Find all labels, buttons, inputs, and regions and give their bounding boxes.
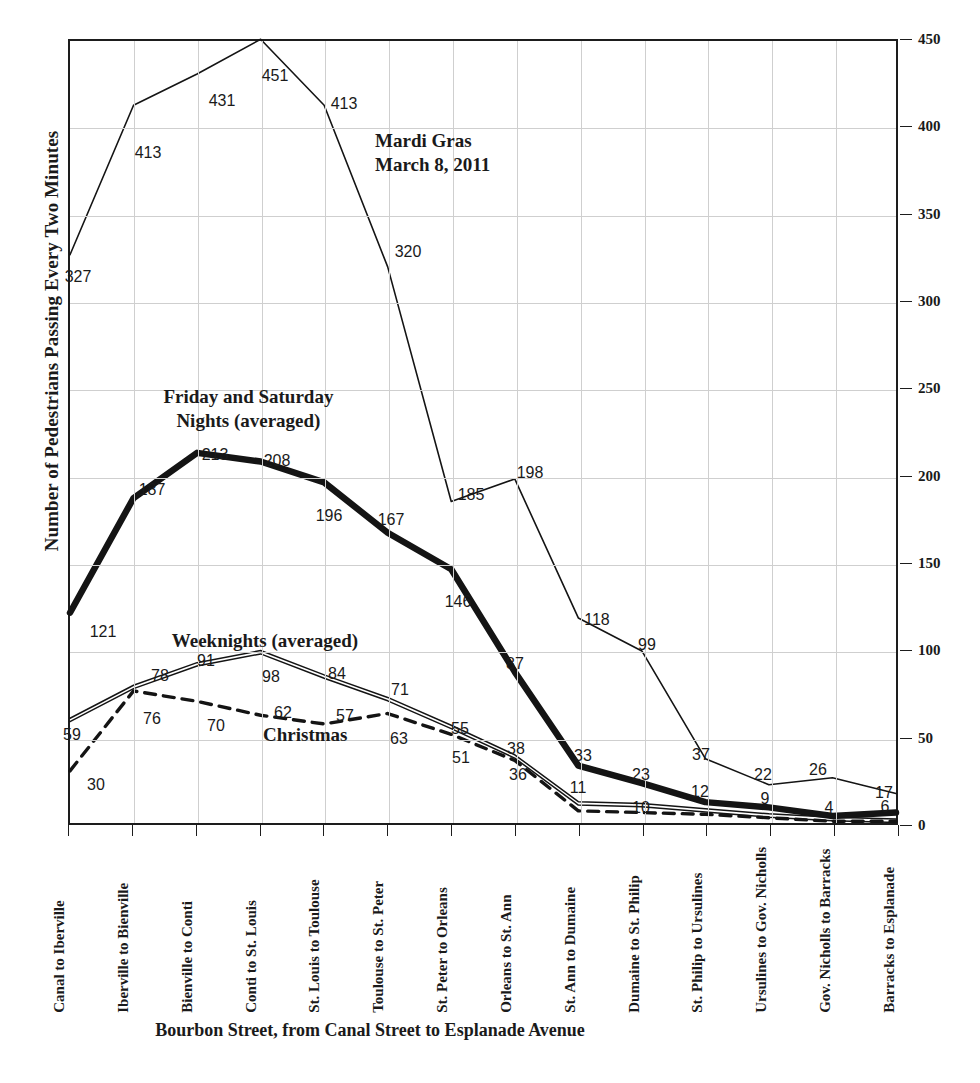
y-axis-tick (900, 563, 912, 564)
data-value-label: 185 (458, 486, 485, 504)
y-axis-tick (900, 738, 912, 739)
data-value-label: 9 (761, 790, 770, 808)
gridline-vertical (645, 41, 646, 823)
x-axis-tick (132, 825, 133, 836)
data-value-label: 63 (390, 730, 408, 748)
y-axis-tick-label: 450 (918, 31, 941, 48)
x-axis-category-label: Barracks to Esplanade (881, 867, 898, 1013)
data-value-label: 11 (570, 779, 587, 797)
data-value-label: 26 (809, 761, 827, 779)
x-axis-tick (196, 825, 197, 836)
y-axis-tick-label: 150 (918, 555, 941, 572)
data-value-label: 413 (135, 144, 162, 162)
x-axis-tick (706, 825, 707, 836)
y-axis-tick (900, 301, 912, 302)
data-value-label: 87 (506, 655, 524, 673)
data-value-label: 78 (151, 667, 169, 685)
x-axis-tick (834, 825, 835, 836)
y-axis-tick (900, 476, 912, 477)
x-axis-category-label: St. Ann to Dumaine (562, 887, 579, 1013)
x-axis-category-label: Orleans to St. Ann (498, 895, 515, 1013)
data-value-label: 36 (509, 766, 527, 784)
data-value-label: 196 (316, 507, 343, 525)
data-value-label: 91 (197, 652, 215, 670)
data-value-label: 4 (825, 799, 834, 817)
data-value-label: 413 (331, 95, 358, 113)
x-axis-category-label: St. Philip to Ursulines (690, 873, 707, 1013)
data-value-label: 213 (202, 446, 229, 464)
data-value-label: 55 (451, 720, 469, 738)
data-value-label: 121 (90, 623, 117, 641)
data-value-label: 23 (632, 766, 650, 784)
x-axis-tick (260, 825, 261, 836)
y-axis-tick-label: 50 (918, 729, 933, 746)
data-value-label: 98 (262, 668, 280, 686)
data-value-label: 33 (574, 747, 592, 765)
gridline-vertical (836, 41, 837, 823)
data-value-label: 6 (881, 798, 890, 816)
data-value-label: 22 (754, 766, 772, 784)
y-axis-tick-label: 300 (918, 293, 941, 310)
y-axis-tick (900, 388, 912, 389)
gridline-vertical (517, 41, 518, 823)
data-value-label: 30 (87, 776, 105, 794)
x-axis-tick (451, 825, 452, 836)
x-axis-category-label: Dumaine to St. Philip (626, 875, 643, 1013)
data-value-label: 327 (65, 268, 92, 286)
x-axis-category-label: St. Peter to Orleans (434, 887, 451, 1013)
y-axis-tick (900, 214, 912, 215)
x-axis-category-label: Bienville to Conti (179, 901, 196, 1013)
x-axis-tick (515, 825, 516, 836)
data-value-label: 12 (691, 783, 709, 801)
data-value-label: 38 (507, 740, 525, 758)
data-value-label: 187 (139, 481, 166, 499)
x-axis-category-label: Ursulines to Gov. Nicholls (754, 838, 771, 1013)
data-value-label: 71 (391, 681, 409, 699)
y-axis-tick-label: 200 (918, 467, 941, 484)
y-axis-tick (900, 650, 912, 651)
x-axis-tick (387, 825, 388, 836)
x-axis-tick (898, 825, 899, 836)
y-axis-tick (900, 825, 912, 826)
y-axis-tick (900, 126, 912, 127)
x-axis-tick (770, 825, 771, 836)
x-axis-category-label: Canal to Iberville (51, 901, 68, 1014)
gridline-vertical (708, 41, 709, 823)
data-value-label: 10 (632, 799, 650, 817)
y-axis-tick-label: 250 (918, 380, 941, 397)
data-value-label: 37 (692, 746, 710, 764)
x-axis-tick (579, 825, 580, 836)
data-value-label: 99 (638, 636, 656, 654)
data-value-label: 76 (143, 710, 161, 728)
x-axis-tick (643, 825, 644, 836)
x-axis-category-label: Gov. Nicholls to Barracks (817, 838, 834, 1013)
y-axis-tick-label: 100 (918, 642, 941, 659)
data-value-label: 198 (517, 464, 544, 482)
data-value-label: 451 (262, 67, 289, 85)
y-axis-title: Number of Pedestrians Passing Every Two … (41, 81, 63, 601)
data-value-label: 118 (584, 611, 610, 629)
x-axis-category-label: Toulouse to St. Peter (370, 881, 387, 1013)
y-axis-tick-label: 0 (918, 817, 926, 834)
series-annotation-3: Christmas (263, 723, 347, 747)
x-axis-category-label: Conti to St. Louis (243, 900, 260, 1013)
x-axis-tick (68, 825, 69, 836)
data-value-label: 146 (445, 593, 472, 611)
data-value-label: 208 (264, 452, 291, 470)
x-axis-title: Bourbon Street, from Canal Street to Esp… (60, 1020, 680, 1041)
data-value-label: 167 (378, 511, 405, 529)
data-value-label: 59 (63, 726, 81, 744)
y-axis-tick (900, 39, 912, 40)
data-value-label: 320 (395, 243, 422, 261)
y-axis-tick-label: 350 (918, 205, 941, 222)
y-axis-tick-label: 400 (918, 118, 941, 135)
x-axis-category-label: Iberville to Bienville (115, 883, 132, 1013)
data-value-label: 62 (274, 704, 292, 722)
gridline-vertical (772, 41, 773, 823)
series-annotation-1: Friday and Saturday Nights (averaged) (163, 385, 333, 433)
gridline-vertical (581, 41, 582, 823)
chart-page: Number of Pedestrians Passing Every Two … (0, 0, 980, 1083)
data-value-label: 70 (207, 717, 225, 735)
series-annotation-0: Mardi Gras March 8, 2011 (375, 129, 490, 177)
x-axis-tick (323, 825, 324, 836)
